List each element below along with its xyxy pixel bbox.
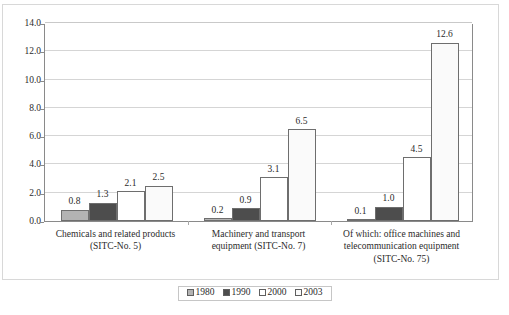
category-label-line: (SITC-No. 75) — [330, 253, 473, 265]
legend-item[interactable]: 1990 — [223, 288, 251, 298]
bar[interactable]: 0.8 — [61, 210, 89, 221]
category-separator-tick — [331, 221, 332, 225]
y-axis-tick-label: 14.0 — [7, 19, 41, 29]
chart-legend: 1980199020002003 — [178, 286, 332, 301]
y-axis-tick-label: 8.0 — [7, 104, 41, 114]
legend-label: 1990 — [232, 288, 251, 298]
bars: 0.20.93.16.5 — [204, 24, 316, 221]
bar-slot: 1.0 — [375, 24, 403, 221]
bar-slot: 2.5 — [145, 24, 173, 221]
legend-item[interactable]: 2003 — [295, 288, 323, 298]
legend-item[interactable]: 1980 — [187, 288, 215, 298]
bar-value-label: 1.3 — [97, 190, 109, 200]
legend-swatch-icon — [295, 289, 302, 296]
y-axis-tick-label: 12.0 — [7, 47, 41, 57]
category-label: Of which: office machines andtelecommuni… — [330, 228, 473, 265]
bar-value-label: 0.1 — [355, 207, 367, 217]
bar-value-label: 2.1 — [125, 179, 137, 189]
bar[interactable]: 0.2 — [204, 218, 232, 221]
bar-value-label: 1.0 — [383, 194, 395, 204]
chart-figure: 0.02.04.06.08.010.012.014.0 0.81.32.12.5… — [0, 0, 509, 315]
category-label-line: Chemicals and related products — [44, 228, 187, 240]
bar-slot: 4.5 — [403, 24, 431, 221]
legend-swatch-icon — [187, 289, 194, 296]
bar-value-label: 12.6 — [436, 30, 453, 40]
legend-item[interactable]: 2000 — [259, 288, 287, 298]
bar-slot: 2.1 — [117, 24, 145, 221]
category-label-line: telecommunication equipment — [330, 240, 473, 252]
bar[interactable]: 12.6 — [431, 43, 459, 221]
category-separator-tick — [188, 221, 189, 225]
bar-slot: 3.1 — [260, 24, 288, 221]
bar[interactable]: 2.1 — [117, 191, 145, 221]
bar[interactable]: 2.5 — [145, 186, 173, 221]
legend-label: 1980 — [196, 288, 215, 298]
category-label: Machinery and transportequipment (SITC-N… — [187, 228, 330, 253]
bar-slot: 1.3 — [89, 24, 117, 221]
bar-group: 0.20.93.16.5 — [204, 24, 316, 221]
bar[interactable]: 6.5 — [288, 129, 316, 221]
bar-slot: 12.6 — [431, 24, 459, 221]
bar-value-label: 3.1 — [268, 165, 280, 175]
legend-label: 2000 — [268, 288, 287, 298]
y-axis-tick-label: 10.0 — [7, 76, 41, 86]
bar[interactable]: 0.1 — [347, 219, 375, 221]
bar-value-label: 0.9 — [240, 196, 252, 206]
bar-value-label: 0.2 — [212, 206, 224, 216]
bar-slot: 0.2 — [204, 24, 232, 221]
bar-slot: 0.9 — [232, 24, 260, 221]
bar-value-label: 6.5 — [296, 117, 308, 127]
bar-slot: 0.1 — [347, 24, 375, 221]
bar-group: 0.11.04.512.6 — [347, 24, 459, 221]
legend-swatch-icon — [259, 289, 266, 296]
plot-area: 0.81.32.12.50.20.93.16.50.11.04.512.6 — [44, 24, 473, 222]
bar-value-label: 0.8 — [69, 197, 81, 207]
category-label-line: (SITC-No. 5) — [44, 240, 187, 252]
legend-swatch-icon — [223, 289, 230, 296]
bar-group: 0.81.32.12.5 — [61, 24, 173, 221]
category-label: Chemicals and related products(SITC-No. … — [44, 228, 187, 253]
bar-slot: 0.8 — [61, 24, 89, 221]
bars: 0.11.04.512.6 — [347, 24, 459, 221]
y-axis-tick-label: 0.0 — [7, 217, 41, 227]
y-axis-tick-label: 6.0 — [7, 132, 41, 142]
bar-value-label: 4.5 — [411, 145, 423, 155]
category-label-line: Machinery and transport — [187, 228, 330, 240]
y-axis-tick-mark — [40, 222, 44, 223]
gridline — [45, 22, 472, 23]
bar[interactable]: 1.0 — [375, 207, 403, 221]
bar[interactable]: 1.3 — [89, 203, 117, 221]
bar-slot: 6.5 — [288, 24, 316, 221]
bar[interactable]: 0.9 — [232, 208, 260, 221]
category-label-line: Of which: office machines and — [330, 228, 473, 240]
bar[interactable]: 3.1 — [260, 177, 288, 221]
y-axis-tick-label: 2.0 — [7, 189, 41, 199]
bars: 0.81.32.12.5 — [61, 24, 173, 221]
y-axis-tick-label: 4.0 — [7, 160, 41, 170]
legend-label: 2003 — [304, 288, 323, 298]
bar[interactable]: 4.5 — [403, 157, 431, 221]
category-label-line: equipment (SITC-No. 7) — [187, 240, 330, 252]
bar-value-label: 2.5 — [153, 173, 165, 183]
